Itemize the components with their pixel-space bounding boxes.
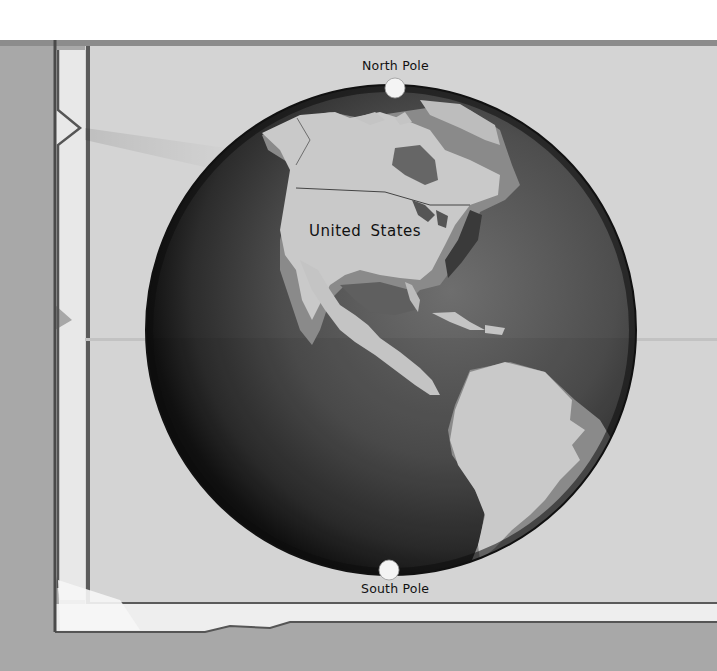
globe-map-scene: North Pole South Pole United States: [0, 0, 717, 671]
country-label-united-states: United States: [309, 222, 421, 240]
scene-illustration: [0, 0, 717, 671]
north-pole-label: North Pole: [362, 58, 429, 73]
south-pole-label: South Pole: [361, 581, 429, 596]
north-pole-marker: [385, 78, 405, 98]
south-pole-marker: [379, 560, 399, 580]
